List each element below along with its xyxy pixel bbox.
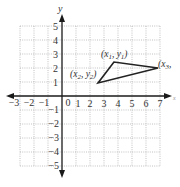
- x-tick-labels: −3 −2 −1 0 1 2 3 4 5 6 7: [9, 97, 163, 109]
- point-label-x3y3: (x3,: [158, 59, 171, 71]
- x-tick-label: 6: [144, 98, 149, 109]
- y-tick-label: −5: [48, 160, 59, 171]
- triangle: [98, 62, 158, 83]
- y-tick-label: 2: [53, 63, 58, 74]
- point-label-x2y2: (x2, y2): [70, 69, 97, 81]
- y-axis-up-arrow-icon: [59, 14, 65, 22]
- x-tick-label: 4: [116, 98, 121, 109]
- point-label-x1y1: (x1, y1): [101, 49, 128, 61]
- y-tick-label: −1: [48, 104, 59, 115]
- x-tick-label: 7: [158, 98, 163, 109]
- x-tick-label: 3: [102, 98, 107, 109]
- y-axis-down-arrow-icon: [59, 170, 65, 178]
- y-tick-label: −2: [48, 118, 59, 129]
- y-tick-label: 4: [53, 35, 58, 46]
- x-axis-right-arrow-icon: [164, 93, 172, 99]
- x-tick-label: 5: [130, 98, 135, 109]
- origin-label: 0: [66, 97, 71, 108]
- y-tick-label: 3: [53, 49, 58, 60]
- x-tick-label: −3: [9, 97, 20, 108]
- y-tick-label: 1: [53, 77, 58, 88]
- x-tick-label: 1: [76, 98, 81, 109]
- x-tick-label: −2: [24, 97, 35, 108]
- y-axis-title: y: [57, 3, 63, 14]
- x-axis-title: x: [172, 95, 176, 101]
- coordinate-plane: y x −3 −2 −1 0 1 2 3 4 5 6 7 5 4 3 2 1 −…: [0, 0, 180, 187]
- x-tick-label: 2: [88, 98, 93, 109]
- y-tick-label: −4: [48, 146, 59, 157]
- y-tick-label: 5: [53, 21, 58, 32]
- y-tick-label: −3: [48, 132, 59, 143]
